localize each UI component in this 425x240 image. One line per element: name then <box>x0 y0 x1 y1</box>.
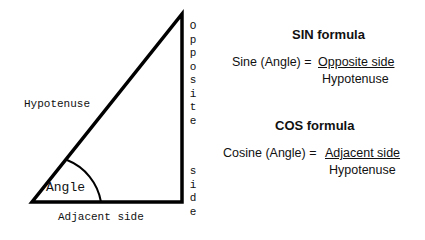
letter: s <box>188 165 198 179</box>
letter: p <box>188 34 198 48</box>
letter: i <box>188 88 198 102</box>
angle-label: Angle <box>46 180 85 195</box>
letter: e <box>188 206 198 220</box>
adjacent-side-label: Adjacent side <box>58 211 144 223</box>
letter: d <box>188 192 198 206</box>
hypotenuse-label: Hypotenuse <box>24 98 90 110</box>
cos-denominator: Hypotenuse <box>329 163 396 177</box>
sin-formula-title: SIN formula <box>292 27 365 42</box>
sin-numerator: Opposite side <box>318 55 394 69</box>
cos-formula-lhs: Cosine (Angle) = <box>223 146 316 160</box>
side-label-vertical: s i d e <box>188 165 198 219</box>
letter: s <box>188 74 198 88</box>
opposite-label-vertical: O p p o s i t e <box>188 20 198 128</box>
cos-formula-title: COS formula <box>275 118 354 133</box>
sin-denominator: Hypotenuse <box>322 72 389 86</box>
cos-numerator: Adjacent side <box>325 146 400 160</box>
letter: i <box>188 179 198 193</box>
letter: O <box>188 20 198 34</box>
letter: t <box>188 101 198 115</box>
letter: p <box>188 47 198 61</box>
letter: o <box>188 61 198 75</box>
trig-diagram: Hypotenuse Adjacent side Angle O p p o s… <box>0 0 425 240</box>
sin-formula-lhs: Sine (Angle) = <box>232 55 312 69</box>
letter: e <box>188 115 198 129</box>
